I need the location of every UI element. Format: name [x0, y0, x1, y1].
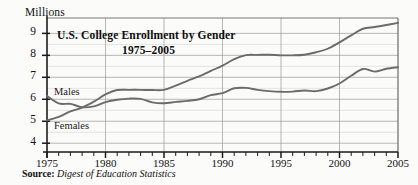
- y-tick-label-9: 9: [20, 25, 36, 37]
- chart-title-line2: 1975–2005: [122, 44, 175, 56]
- y-tick-label-5: 5: [20, 113, 36, 125]
- x-tick-label-2005: 2005: [378, 157, 418, 169]
- y-tick-label-7: 7: [20, 69, 36, 81]
- source-prefix: Source:: [22, 168, 55, 179]
- series-label-males: Males: [54, 86, 80, 97]
- x-tick-label-1990: 1990: [203, 157, 243, 169]
- source-body: Digest of Education Statistics: [57, 168, 176, 179]
- chart-figure: Millions 987654 197519801985199019952000…: [0, 0, 418, 185]
- y-tick-label-6: 6: [20, 91, 36, 103]
- y-tick-label-4: 4: [20, 135, 36, 147]
- source-note: Source: Digest of Education Statistics: [22, 168, 176, 179]
- axis-ticks: [42, 33, 398, 158]
- x-tick-label-2000: 2000: [320, 157, 360, 169]
- series-label-females: Females: [54, 120, 89, 131]
- chart-title-line1: U.S. College Enrollment by Gender: [57, 29, 236, 41]
- x-tick-label-1995: 1995: [261, 157, 301, 169]
- y-tick-label-8: 8: [20, 47, 36, 59]
